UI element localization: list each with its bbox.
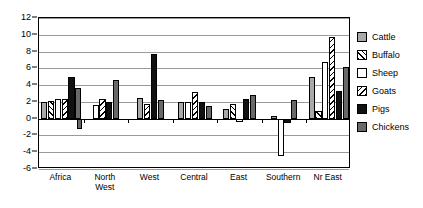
x-axis-label-central: Central bbox=[172, 172, 217, 182]
category-tick-2 bbox=[128, 119, 129, 123]
legend-item-cattle[interactable]: Cattle bbox=[357, 28, 421, 46]
chickens-swatch bbox=[357, 122, 367, 132]
legend-item-buffalo[interactable]: Buffalo bbox=[357, 46, 421, 64]
y-tick-label-10: 10 bbox=[21, 29, 31, 38]
legend-item-sheep[interactable]: Sheep bbox=[357, 64, 421, 82]
category-tick-1 bbox=[84, 119, 85, 123]
gridline--2 bbox=[39, 135, 349, 136]
bar-central-sheep bbox=[185, 102, 191, 119]
legend-item-chickens[interactable]: Chickens bbox=[357, 118, 421, 136]
bar-africa-cattle bbox=[41, 102, 47, 119]
legend-label-goats: Goats bbox=[372, 86, 396, 96]
category-tick-5 bbox=[262, 119, 263, 123]
bar-west-pigs bbox=[151, 54, 157, 119]
gridline-8 bbox=[39, 52, 349, 53]
bar-nr-east-buffalo bbox=[315, 111, 321, 119]
bar-north-west-pigs bbox=[106, 102, 112, 119]
x-axis-label-southern: Southern bbox=[261, 172, 306, 182]
y-tick-mark-2 bbox=[32, 100, 37, 101]
bar-nr-east-goats bbox=[329, 37, 335, 118]
sheep-swatch bbox=[357, 68, 367, 78]
legend-label-cattle: Cattle bbox=[372, 32, 396, 42]
legend-label-pigs: Pigs bbox=[372, 104, 390, 114]
bar-north-west-goats bbox=[99, 99, 105, 118]
category-tick-4 bbox=[217, 119, 218, 123]
bar-east-pigs bbox=[243, 99, 249, 118]
y-tick-mark--2 bbox=[32, 134, 37, 135]
bar-west-cattle bbox=[137, 98, 143, 119]
y-tick-mark-8 bbox=[32, 50, 37, 51]
bar-west-goats bbox=[144, 104, 150, 119]
bar-southern-sheep bbox=[278, 119, 284, 157]
gridline-4 bbox=[39, 85, 349, 86]
y-tick-label-8: 8 bbox=[26, 46, 31, 55]
bar-east-cattle bbox=[223, 109, 229, 119]
bar-nr-east-pigs bbox=[336, 91, 342, 119]
y-tick-label--4: -4 bbox=[23, 147, 31, 156]
y-tick-mark--4 bbox=[32, 151, 37, 152]
bar-africa-chickens bbox=[77, 119, 82, 129]
gridline--6 bbox=[39, 169, 349, 170]
y-tick-label-6: 6 bbox=[26, 63, 31, 72]
bar-africa-sheep bbox=[55, 99, 61, 118]
y-tick-label-0: 0 bbox=[26, 113, 31, 122]
x-axis-label-nr-east: Nr East bbox=[305, 172, 350, 182]
legend-item-pigs[interactable]: Pigs bbox=[357, 100, 421, 118]
y-tick-label-2: 2 bbox=[26, 96, 31, 105]
chart-container: 121086420-2-4-6 AfricaNorth WestWestCent… bbox=[0, 0, 423, 208]
bar-central-goats bbox=[192, 92, 198, 119]
category-tick-3 bbox=[173, 119, 174, 123]
y-tick-mark-12 bbox=[32, 17, 37, 18]
bar-east-buffalo bbox=[230, 104, 236, 119]
y-tick-mark-10 bbox=[32, 33, 37, 34]
legend-label-sheep: Sheep bbox=[372, 68, 398, 78]
x-axis-label-north-west: North West bbox=[83, 172, 128, 192]
gridline-10 bbox=[39, 35, 349, 36]
goats-swatch bbox=[357, 86, 367, 96]
bar-west-chickens bbox=[158, 100, 164, 118]
bar-southern-pigs bbox=[284, 119, 290, 123]
pigs-swatch bbox=[357, 104, 367, 114]
bar-nr-east-chickens bbox=[343, 67, 349, 119]
bar-southern-chickens bbox=[291, 100, 297, 118]
y-tick-mark--6 bbox=[32, 168, 37, 169]
y-tick-label-12: 12 bbox=[21, 13, 31, 22]
cattle-swatch bbox=[357, 32, 367, 42]
legend-item-goats[interactable]: Goats bbox=[357, 82, 421, 100]
y-tick-mark-6 bbox=[32, 67, 37, 68]
x-axis-label-east: East bbox=[216, 172, 261, 182]
buffalo-swatch bbox=[357, 50, 367, 60]
y-tick-mark-0 bbox=[32, 117, 37, 118]
gridline-12 bbox=[39, 18, 349, 19]
bar-east-chickens bbox=[250, 95, 256, 118]
bar-central-pigs bbox=[199, 102, 205, 119]
gridline--4 bbox=[39, 152, 349, 153]
bar-southern-cattle bbox=[271, 116, 277, 119]
y-tick-mark-4 bbox=[32, 84, 37, 85]
zero-line bbox=[39, 119, 349, 120]
y-tick-label--2: -2 bbox=[23, 130, 31, 139]
legend-label-buffalo: Buffalo bbox=[372, 50, 400, 60]
x-axis-label-africa: Africa bbox=[38, 172, 83, 182]
bar-nr-east-cattle bbox=[309, 77, 315, 119]
bar-north-west-sheep bbox=[93, 105, 99, 118]
bar-nr-east-sheep bbox=[322, 62, 328, 118]
bar-africa-chickens bbox=[75, 88, 81, 118]
bar-africa-buffalo bbox=[48, 101, 54, 119]
bar-central-chickens bbox=[206, 106, 212, 119]
bar-central-cattle bbox=[178, 102, 184, 119]
gridline-6 bbox=[39, 68, 349, 69]
legend-label-chickens: Chickens bbox=[372, 122, 409, 132]
plot-area bbox=[38, 17, 350, 168]
bar-east-sheep bbox=[236, 119, 242, 122]
bar-africa-goats bbox=[62, 99, 68, 119]
x-axis-label-west: West bbox=[127, 172, 172, 182]
y-tick-label-4: 4 bbox=[26, 80, 31, 89]
bar-africa-pigs bbox=[68, 77, 74, 119]
y-axis: 121086420-2-4-6 bbox=[0, 17, 37, 168]
bar-north-west-chickens bbox=[113, 80, 119, 119]
category-tick-6 bbox=[306, 119, 307, 123]
y-tick-label--6: -6 bbox=[23, 164, 31, 173]
chart-legend: CattleBuffaloSheepGoatsPigsChickens bbox=[357, 28, 421, 136]
